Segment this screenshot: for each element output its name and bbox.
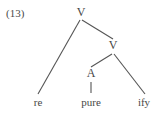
leaf-re: re [34, 96, 43, 108]
leaf-ify: ify [138, 96, 150, 108]
syntax-tree-figure: (13) V V A re pure ify [0, 0, 160, 118]
edge-root-to-re [38, 20, 80, 94]
leaf-pure: pure [81, 96, 101, 108]
node-v-root: V [77, 6, 86, 18]
node-a: A [87, 67, 96, 79]
node-v-inner: V [109, 39, 118, 51]
edge-v-to-ify [114, 54, 145, 94]
edge-root-to-v [82, 20, 113, 39]
